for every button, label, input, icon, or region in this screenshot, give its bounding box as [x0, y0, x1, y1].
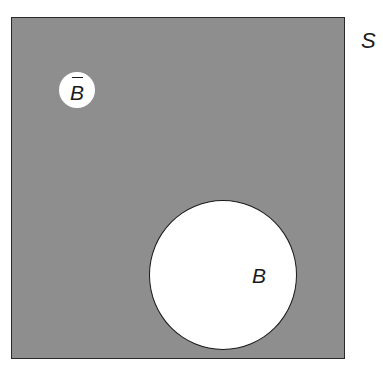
set-b-label: B [252, 264, 266, 288]
sample-space-label: S [361, 28, 376, 54]
set-b-circle [149, 200, 297, 350]
complement-label-badge: B [59, 72, 95, 108]
complement-label: B [70, 82, 84, 103]
